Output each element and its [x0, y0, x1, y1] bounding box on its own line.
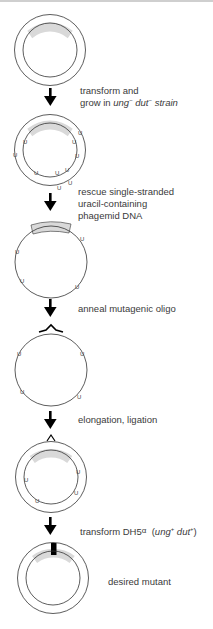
plasmid-annealed: U U U U	[15, 334, 87, 406]
label-line: rescue single-stranded	[78, 186, 174, 198]
svg-text:U: U	[20, 389, 24, 395]
svg-text:U: U	[20, 278, 24, 284]
svg-text:U: U	[68, 180, 72, 186]
gene-name: dut	[177, 526, 190, 537]
arrow-down-icon	[44, 299, 57, 317]
label-line: uracil-containing	[78, 198, 174, 210]
arrow-down-icon	[44, 88, 57, 106]
gene-name: ung	[155, 526, 171, 537]
mutation-site	[51, 543, 57, 555]
gene-name: ung	[113, 97, 129, 108]
label-line: phagemid DNA	[78, 210, 174, 222]
svg-text:U: U	[55, 170, 59, 176]
svg-text:U: U	[75, 284, 79, 290]
step-label-rescue: rescue single-stranded uracil-containing…	[78, 186, 174, 222]
svg-text:U: U	[34, 170, 38, 176]
gene-name: dut	[135, 97, 148, 108]
arrow-down-icon	[44, 193, 57, 211]
alpha-symbol: α	[142, 526, 147, 535]
svg-text:U: U	[78, 130, 82, 136]
plasmid-heteroduplex: U U U U	[16, 435, 87, 513]
svg-text:U: U	[76, 469, 80, 475]
svg-text:U: U	[57, 185, 61, 191]
mutagenic-oligo	[39, 325, 63, 332]
uracil-marker: U	[23, 139, 27, 145]
svg-text:U: U	[80, 351, 84, 357]
superscript: +	[190, 526, 194, 532]
svg-text:U: U	[35, 498, 39, 504]
label-text: transform DH5	[80, 526, 142, 537]
label-line: desired mutant	[108, 576, 171, 588]
step-label-anneal: anneal mutagenic oligo	[78, 303, 176, 315]
arrow-down-icon	[44, 517, 57, 535]
label-line: elongation, ligation	[78, 414, 157, 426]
label-line: anneal mutagenic oligo	[78, 303, 176, 315]
plasmid-uracil-containing: U U U U U U U U U U	[13, 115, 86, 192]
plasmid-parent	[15, 15, 86, 86]
label-line: transform and	[80, 85, 178, 97]
label-line: grow in ung− dut− strain	[80, 97, 178, 109]
mismatch-bulge	[47, 435, 55, 441]
label-text: grow in	[80, 97, 113, 108]
svg-text:U: U	[75, 153, 79, 159]
label-text: strain	[152, 97, 178, 108]
svg-text:U: U	[17, 351, 21, 357]
svg-text:U: U	[72, 139, 76, 145]
svg-text:U: U	[24, 477, 28, 483]
svg-text:U: U	[80, 236, 84, 242]
svg-text:U: U	[15, 249, 19, 255]
superscript: −	[129, 97, 133, 103]
superscript: +	[171, 526, 175, 532]
plasmid-single-stranded: U U U U	[15, 222, 87, 298]
step-label-elongation: elongation, ligation	[78, 414, 157, 426]
step-label-transform-dh5a: transform DH5α (ung+ dut+)	[80, 525, 197, 538]
svg-text:U: U	[77, 394, 81, 400]
plasmid-desired-mutant	[18, 543, 89, 614]
step-label-transform-grow: transform and grow in ung− dut− strain	[80, 85, 178, 109]
svg-text:U: U	[74, 490, 78, 496]
svg-text:U: U	[65, 167, 69, 173]
svg-text:U: U	[13, 152, 17, 158]
step-label-desired-mutant: desired mutant	[108, 576, 171, 588]
arrow-down-icon	[44, 411, 57, 429]
